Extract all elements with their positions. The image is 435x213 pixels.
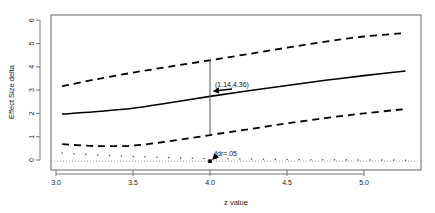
data-point [144,156,146,158]
x-tick-label: 5.0 [359,179,369,186]
y-tick-label: 4 [28,65,35,69]
data-point [334,159,336,161]
data-point [97,154,99,156]
data-point [215,158,217,160]
data-point [168,157,170,159]
plot-background [0,0,435,213]
fdr-marker [208,159,212,163]
data-point [310,159,312,161]
data-point [298,159,300,161]
y-tick-label: 3 [28,88,35,92]
data-point [203,158,205,160]
y-tick-label: 5 [28,41,35,45]
x-tick-label: 3.5 [128,179,138,186]
data-point [85,154,87,156]
data-point [381,159,383,161]
data-point [132,156,134,158]
data-point [73,153,75,155]
effect-size-chart: 0123456 3.03.54.04.55.0 z value Effect S… [0,0,435,213]
y-tick-label: 2 [28,111,35,115]
data-point [239,158,241,160]
data-point [369,159,371,161]
annotation-label-fdr: fdr=.05 [215,150,237,157]
data-point [192,157,194,159]
y-axis-title: Effect Size delta [7,64,16,119]
x-tick-label: 4.5 [282,179,292,186]
data-point [286,159,288,161]
data-point [263,158,265,160]
data-point [61,152,63,154]
data-point [357,159,359,161]
data-point [180,157,182,159]
x-axis-title: z value [224,198,248,207]
y-tick-label: 1 [28,135,35,139]
annotation-label-point: (1.14,4.36) [215,81,249,89]
data-point [227,158,229,160]
data-point [121,155,123,157]
data-point [109,155,111,157]
y-tick-label: 0 [28,158,35,162]
data-point [275,159,277,161]
data-point [346,159,348,161]
data-point [393,159,395,161]
data-point [156,156,158,158]
data-point [322,159,324,161]
x-tick-label: 4.0 [205,179,215,186]
x-tick-label: 3.0 [51,179,61,186]
data-point [251,158,253,160]
data-point [405,159,407,161]
y-tick-label: 6 [28,18,35,22]
